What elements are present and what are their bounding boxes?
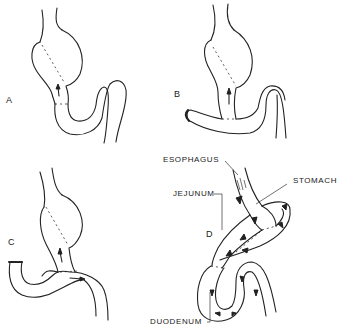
diagram-drawing bbox=[0, 0, 339, 330]
panel-a-drawing bbox=[32, 8, 126, 143]
label-stomach: STOMACH bbox=[293, 177, 337, 185]
panel-b-drawing bbox=[186, 4, 286, 138]
surgical-diagram: A B C D ESOPHAGUS STOMACH JEJUNUM DUODEN… bbox=[0, 0, 339, 330]
panel-label-d: D bbox=[206, 230, 213, 239]
panel-label-a: A bbox=[6, 96, 12, 105]
panel-d-drawing bbox=[198, 161, 291, 322]
label-jejunum: JEJUNUM bbox=[173, 190, 215, 198]
label-duodenum: DUODENUM bbox=[150, 318, 202, 326]
panel-label-b: B bbox=[174, 90, 180, 99]
label-esophagus: ESOPHAGUS bbox=[163, 156, 219, 164]
panel-label-c: C bbox=[8, 238, 15, 247]
panel-c-drawing bbox=[9, 168, 108, 320]
